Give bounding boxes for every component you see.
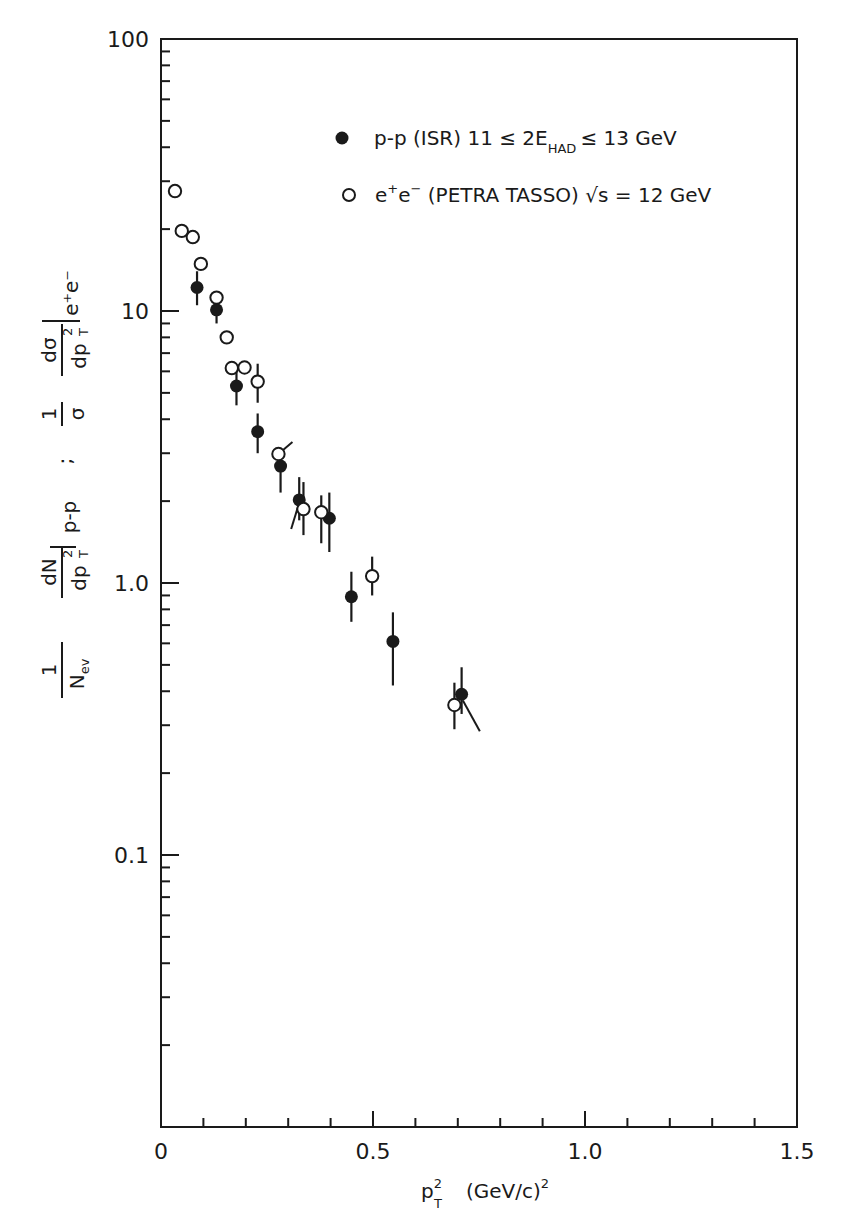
data-point-ee [195,258,207,270]
data-point-ee [187,231,199,243]
data-point-pp [210,303,223,316]
svg-text:2: 2 [60,328,75,336]
y-tick-label: 100 [107,27,149,52]
svg-text:dp: dp [67,565,91,590]
x-axis-title: p2T(GeV/c)2 [421,1176,549,1211]
error-bars [197,271,462,729]
svg-text:p2T(GeV/c)2: p2T(GeV/c)2 [421,1176,549,1211]
data-point-ee [210,291,222,303]
y-tick-label: 10 [121,299,149,324]
axis-ticks [161,51,755,1127]
data-points [169,185,468,711]
slanted-fit-lines [278,442,479,731]
legend-marker-ee [343,189,355,201]
chart-figure: 100101.00.100.51.01.5 p-p (ISR) 11 ≤ 2EH… [0,0,841,1230]
svg-text:σ: σ [65,407,89,420]
svg-text:1: 1 [37,408,61,421]
data-point-ee [315,506,327,518]
x-tick-label: 0 [154,1139,168,1164]
legend-label-ee: e+e− (PETRA TASSO) √s = 12 GeV [375,181,712,207]
data-point-ee [297,503,309,515]
svg-text:T: T [76,550,91,559]
data-point-pp [251,425,264,438]
data-point-pp [386,635,399,648]
data-point-ee [169,185,181,197]
svg-text:1: 1 [37,664,61,677]
y-tick-label: 1.0 [114,571,149,596]
data-point-pp [191,281,204,294]
svg-text:2: 2 [60,550,75,558]
data-point-ee [251,375,263,387]
legend: p-p (ISR) 11 ≤ 2EHAD≤ 13 GeV e+e− (PETRA… [336,126,712,207]
x-tick-label: 0.5 [356,1139,391,1164]
data-point-ee [226,362,238,374]
x-tick-label: 1.0 [568,1139,603,1164]
legend-label-pp: p-p (ISR) 11 ≤ 2EHAD≤ 13 GeV [374,126,677,156]
svg-text:dp: dp [67,343,91,368]
y-axis-title: 1 Nev dN dp 2 T p-p ; 1 σ dσ dp [37,270,92,698]
svg-text:T: T [76,328,91,337]
x-tick-label: 1.5 [780,1139,815,1164]
data-point-pp [230,379,243,392]
svg-text:p-p: p-p [57,501,81,534]
data-point-ee [272,448,284,460]
y-tick-label: 0.1 [114,843,149,868]
data-point-ee [366,570,378,582]
legend-marker-pp [336,132,349,145]
svg-text:e⁺e⁻: e⁺e⁻ [59,270,83,316]
data-point-ee [221,331,233,343]
data-point-pp [345,590,358,603]
slanted-line [463,700,480,731]
data-point-ee [238,361,250,373]
data-point-pp [274,460,287,473]
svg-text:dN: dN [37,558,61,586]
svg-text:dσ: dσ [37,337,61,363]
data-point-ee [448,699,460,711]
svg-text:;: ; [53,458,77,465]
svg-text:Nev: Nev [65,658,92,689]
